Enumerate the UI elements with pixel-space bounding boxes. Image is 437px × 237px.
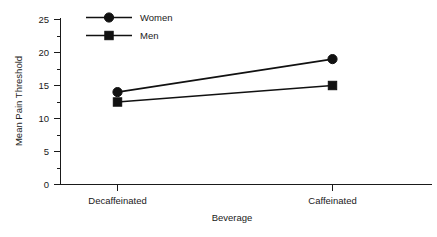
y-tick-label-20: 20 bbox=[38, 47, 49, 58]
x-tick-label-caffeinated: Caffeinated bbox=[308, 195, 356, 206]
y-axis-title: Mean Pain Threshold bbox=[13, 56, 24, 146]
chart-background bbox=[0, 0, 437, 237]
y-tick-label-10: 10 bbox=[38, 113, 49, 124]
y-tick-label-5: 5 bbox=[44, 146, 49, 157]
legend-label-men: Men bbox=[140, 30, 158, 41]
data-point-men-caffeinated bbox=[328, 81, 336, 89]
data-point-women-caffeinated bbox=[328, 55, 337, 64]
data-point-men-decaffeinated bbox=[113, 98, 121, 106]
legend-label-women: Women bbox=[140, 12, 173, 23]
y-tick-label-15: 15 bbox=[38, 80, 49, 91]
legend-marker-square-icon bbox=[105, 31, 113, 39]
chart-container: 0 5 10 15 20 25 Mean Pain Threshold Deca… bbox=[0, 0, 437, 237]
line-chart-figure: 0 5 10 15 20 25 Mean Pain Threshold Deca… bbox=[0, 0, 437, 237]
x-axis-title: Beverage bbox=[212, 212, 253, 223]
y-tick-label-25: 25 bbox=[38, 14, 49, 25]
x-tick-label-decaffeinated: Decaffeinated bbox=[88, 195, 146, 206]
legend-marker-circle-icon bbox=[104, 13, 113, 22]
y-tick-label-0: 0 bbox=[44, 179, 49, 190]
data-point-women-decaffeinated bbox=[113, 88, 122, 97]
